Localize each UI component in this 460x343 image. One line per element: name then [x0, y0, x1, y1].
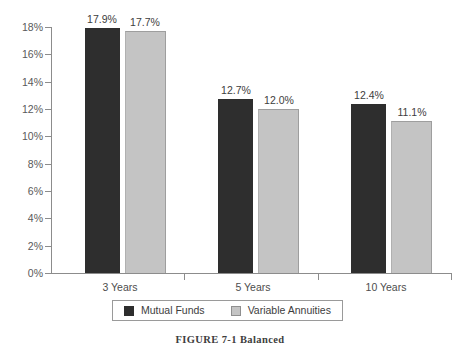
y-axis-tick-label: 12% [0, 104, 43, 115]
legend-swatch-icon [124, 306, 134, 316]
y-axis-tick [45, 246, 52, 247]
y-axis-tick [45, 82, 52, 83]
y-axis-tick-label: 14% [0, 77, 43, 88]
bar [85, 28, 120, 273]
bar-value-label: 12.0% [256, 95, 302, 106]
y-axis-tick-label: 16% [0, 49, 43, 60]
x-axis-category-label: 10 Years [341, 282, 431, 293]
x-axis-line [51, 273, 451, 274]
chart-legend: Mutual FundsVariable Annuities [112, 300, 343, 321]
y-axis-tick-label: 10% [0, 131, 43, 142]
y-axis-tick-label: 2% [0, 241, 43, 252]
y-axis-tick [45, 136, 52, 137]
y-axis-tick-label: 8% [0, 159, 43, 170]
legend-label: Variable Annuities [248, 305, 331, 316]
bar-value-label: 17.9% [79, 14, 125, 25]
y-axis-tick [45, 164, 52, 165]
bar [351, 104, 386, 273]
bar-value-label: 12.7% [213, 85, 259, 96]
legend-item: Mutual Funds [124, 305, 205, 316]
y-axis-tick-label: 18% [0, 22, 43, 33]
y-axis-tick-label: 0% [0, 268, 43, 279]
bar [391, 121, 432, 273]
bar-chart: 0%2%4%6%8%10%12%14%16%18% 17.9%17.7%12.7… [0, 0, 460, 343]
y-axis-tick [45, 273, 52, 274]
y-axis-tick-label: 4% [0, 213, 43, 224]
figure-caption: FIGURE 7-1 Balanced [0, 334, 460, 343]
bar-value-label: 17.7% [122, 17, 168, 28]
bar [125, 31, 166, 273]
y-axis-tick [45, 218, 52, 219]
y-axis-tick [45, 54, 52, 55]
bar-value-label: 12.4% [346, 90, 392, 101]
x-axis-tick [318, 273, 319, 280]
bar-value-label: 11.1% [389, 107, 435, 118]
legend-swatch-icon [231, 306, 241, 316]
x-axis-category-label: 3 Years [75, 282, 165, 293]
x-axis-tick [184, 273, 185, 280]
y-axis-tick-label: 6% [0, 186, 43, 197]
bar [218, 99, 253, 273]
y-axis-tick [45, 191, 52, 192]
legend-label: Mutual Funds [141, 305, 205, 316]
x-axis-category-label: 5 Years [208, 282, 298, 293]
y-axis-tick [45, 27, 52, 28]
legend-item: Variable Annuities [231, 305, 331, 316]
x-axis-tick [451, 273, 452, 280]
y-axis-line [51, 27, 52, 274]
y-axis-tick [45, 109, 52, 110]
bar [258, 109, 299, 273]
